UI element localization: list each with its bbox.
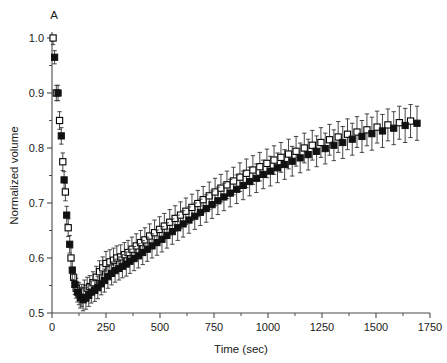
data-point-filled-square (414, 120, 420, 126)
data-point-open-square (264, 160, 270, 166)
y-tick-label: 1.0 (29, 32, 44, 44)
data-point-filled-square (221, 194, 227, 200)
data-point-filled-square (274, 165, 280, 171)
data-point-filled-square (260, 171, 266, 177)
data-point-open-square (318, 139, 324, 145)
data-point-filled-square (64, 212, 70, 218)
data-point-open-square (271, 157, 277, 163)
data-point-open-square (183, 208, 189, 214)
x-tick-label: 1250 (310, 321, 334, 333)
data-point-open-square (65, 225, 71, 231)
data-point-filled-square (180, 221, 186, 227)
x-tick-label: 750 (205, 321, 223, 333)
data-point-filled-square (186, 217, 192, 223)
data-point-open-square (50, 35, 56, 41)
data-point-open-square (224, 182, 230, 188)
data-point-filled-square (58, 133, 64, 139)
data-point-filled-square (61, 177, 67, 183)
data-point-open-square (301, 145, 307, 151)
data-point-open-square (293, 148, 299, 154)
data-point-filled-square (69, 267, 75, 273)
data-point-filled-square (240, 182, 246, 188)
data-point-filled-square (215, 198, 221, 204)
y-tick-label: 0.6 (29, 252, 44, 264)
data-point-open-square (230, 178, 236, 184)
data-point-filled-square (289, 158, 295, 164)
x-tick-label: 500 (151, 321, 169, 333)
data-point-open-square (60, 159, 66, 165)
data-point-open-square (278, 154, 284, 160)
data-point-filled-square (305, 152, 311, 158)
x-axis-title: Time (sec) (214, 343, 268, 355)
data-point-open-square (309, 142, 315, 148)
x-tick-label: 1000 (256, 321, 280, 333)
data-point-filled-square (359, 133, 365, 139)
data-point-open-square (385, 122, 391, 128)
data-point-filled-square (379, 128, 385, 134)
data-point-filled-square (67, 241, 73, 247)
data-point-filled-square (72, 281, 78, 287)
series-open-squares (50, 35, 414, 307)
scatter-plot: 025050075010001250150017500.50.60.70.80.… (0, 0, 447, 363)
data-point-open-square (206, 193, 212, 199)
data-point-filled-square (322, 145, 328, 151)
data-point-open-square (250, 167, 256, 173)
data-point-filled-square (51, 54, 57, 60)
data-point-filled-square (197, 209, 203, 215)
data-layer (50, 35, 420, 311)
data-point-filled-square (227, 190, 233, 196)
y-tick-label: 0.8 (29, 142, 44, 154)
y-tick-label: 0.7 (29, 197, 44, 209)
data-point-open-square (218, 185, 224, 191)
data-point-open-square (200, 197, 206, 203)
y-tick-label: 0.5 (29, 307, 44, 319)
data-point-filled-square (282, 161, 288, 167)
data-point-filled-square (391, 125, 397, 131)
panel-label: A (50, 9, 58, 21)
data-point-filled-square (247, 178, 253, 184)
x-tick-label: 1500 (364, 321, 388, 333)
x-tick-label: 1750 (418, 321, 442, 333)
data-point-filled-square (267, 168, 273, 174)
data-point-filled-square (314, 148, 320, 154)
figure-panel-a: 025050075010001250150017500.50.60.70.80.… (0, 0, 447, 363)
data-point-filled-square (402, 122, 408, 128)
data-point-filled-square (349, 136, 355, 142)
data-point-filled-square (340, 139, 346, 145)
data-point-filled-square (331, 142, 337, 148)
data-point-open-square (285, 151, 291, 157)
y-axis-title: Normalized volume (8, 126, 20, 224)
data-point-open-square (189, 204, 195, 210)
data-point-filled-square (253, 175, 259, 181)
y-tick-label: 0.9 (29, 87, 44, 99)
data-point-filled-square (203, 205, 209, 211)
data-point-filled-square (297, 155, 303, 161)
data-point-filled-square (234, 186, 240, 192)
x-tick-label: 0 (49, 321, 55, 333)
data-point-open-square (56, 117, 62, 123)
data-point-filled-square (369, 131, 375, 137)
data-point-filled-square (55, 90, 61, 96)
data-point-open-square (68, 255, 74, 261)
data-point-filled-square (209, 202, 215, 208)
data-point-open-square (257, 164, 263, 170)
x-tick-label: 250 (97, 321, 115, 333)
data-point-open-square (62, 189, 68, 195)
data-point-open-square (212, 189, 218, 195)
